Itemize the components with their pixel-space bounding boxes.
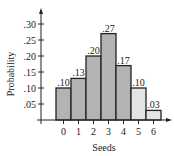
data-label: .27 <box>102 23 115 34</box>
x-tick-label: 0 <box>61 126 66 137</box>
data-label: .10 <box>57 77 70 88</box>
bar-3 <box>101 34 116 120</box>
x-tick-label: 3 <box>106 126 111 137</box>
x-tick-label: 6 <box>151 126 156 137</box>
y-axis-arrow-icon <box>39 8 43 14</box>
bar-0 <box>56 88 71 120</box>
bar-5 <box>131 88 146 120</box>
x-tick-label: 4 <box>121 126 126 137</box>
y-tick-label: .05 <box>24 99 37 110</box>
y-axis-title: Probability <box>5 52 16 96</box>
data-label: .10 <box>132 77 145 88</box>
bar-2 <box>86 56 101 120</box>
data-label: .13 <box>72 67 85 78</box>
probability-histogram: .100.131.202.273.174.105.036.05.10.15.20… <box>0 0 174 156</box>
x-tick-label: 2 <box>91 126 96 137</box>
x-axis-title: Seeds <box>92 142 115 153</box>
y-tick-label: .20 <box>24 51 37 62</box>
bar-4 <box>116 66 131 120</box>
y-tick-label: .25 <box>24 35 37 46</box>
y-tick-label: .10 <box>24 83 37 94</box>
x-axis-arrow-icon <box>166 118 172 122</box>
x-tick-label: 5 <box>136 126 141 137</box>
y-tick-label: .30 <box>24 19 37 30</box>
data-label: .03 <box>147 99 160 110</box>
data-label: .20 <box>87 45 100 56</box>
data-label: .17 <box>117 55 130 66</box>
x-tick-label: 1 <box>76 126 81 137</box>
bar-1 <box>71 78 86 120</box>
bar-6 <box>146 110 161 120</box>
y-tick-label: .15 <box>24 67 37 78</box>
